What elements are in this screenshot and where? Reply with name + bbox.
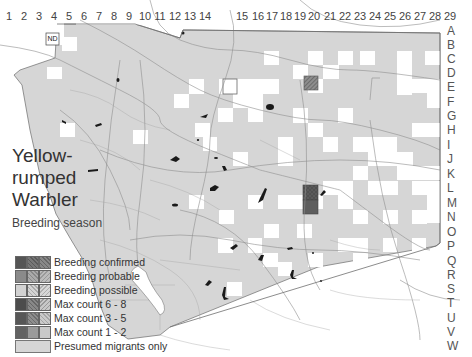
col-label-6: 6: [81, 10, 87, 22]
legend-label: Breeding confirmed: [54, 256, 145, 268]
swatch-icon: [39, 270, 51, 283]
col-label-26: 26: [399, 10, 411, 22]
legend-item-breeding-possible: Breeding possible: [15, 283, 137, 297]
row-label-A: A: [447, 24, 455, 38]
swatch-icon: [15, 298, 27, 311]
col-label-14: 14: [199, 10, 211, 22]
col-label-13: 13: [184, 10, 196, 22]
col-label-25: 25: [384, 10, 396, 22]
col-label-20: 20: [308, 10, 320, 22]
legend-item-max-count-1-2: Max count 1 - 2: [15, 325, 126, 339]
row-label-P: P: [447, 239, 455, 253]
species-title: Yellow- rumped Warbler: [12, 145, 78, 211]
row-label-F: F: [447, 95, 454, 109]
col-label-24: 24: [369, 10, 381, 22]
col-label-11: 11: [154, 10, 165, 22]
swatch-icon: [39, 326, 51, 339]
legend-item-breeding-probable: Breeding probable: [15, 269, 140, 283]
legend-item-max-count-3-5: Max count 3 - 5: [15, 311, 126, 325]
swatch-icon: [39, 256, 51, 269]
col-label-5: 5: [66, 10, 72, 22]
col-label-19: 19: [294, 10, 306, 22]
row-label-J: J: [447, 152, 453, 166]
row-label-O: O: [447, 225, 456, 239]
legend-label: Breeding possible: [54, 284, 137, 296]
col-label-29: 29: [444, 10, 456, 22]
species-title-line-3: Warbler: [12, 189, 78, 211]
cell-20N-breeding-confirmed: [303, 200, 318, 214]
swatch-icon: [15, 340, 51, 353]
row-label-Q: Q: [447, 254, 456, 268]
row-label-G: G: [447, 109, 456, 123]
species-title-line-1: Yellow-: [12, 145, 78, 167]
col-label-7: 7: [96, 10, 102, 22]
col-label-8: 8: [111, 10, 117, 22]
row-label-D: D: [447, 66, 456, 80]
swatch-icon: [27, 256, 39, 269]
swatch-icon: [15, 284, 27, 297]
col-label-4: 4: [51, 10, 57, 22]
swatch-icon: [39, 298, 51, 311]
legend-label: Max count 6 - 8: [54, 298, 126, 310]
row-label-B: B: [447, 38, 455, 52]
swatch-icon: [15, 312, 27, 325]
col-label-2: 2: [21, 10, 27, 22]
row-label-C: C: [447, 52, 456, 66]
species-title-line-2: rumped: [12, 167, 78, 189]
legend-item-breeding-confirmed: Breeding confirmed: [15, 255, 145, 269]
swatch-icon: [15, 326, 27, 339]
row-label-M: M: [447, 196, 457, 210]
legend-label: Max count 1 - 2: [54, 326, 126, 338]
row-label-L: L: [447, 181, 454, 195]
swatch-icon: [39, 284, 51, 297]
row-label-I: I: [447, 138, 450, 152]
no-data-label: ND: [46, 35, 59, 42]
legend-label: Breeding probable: [54, 270, 140, 282]
col-label-17: 17: [266, 10, 278, 22]
row-label-R: R: [447, 268, 456, 282]
col-label-3: 3: [36, 10, 42, 22]
season-subtitle: Breeding season: [12, 216, 102, 230]
col-label-16: 16: [252, 10, 264, 22]
col-label-22: 22: [339, 10, 351, 22]
row-label-V: V: [447, 325, 455, 339]
swatch-icon: [15, 256, 27, 269]
swatch-icon: [27, 270, 39, 283]
row-label-U: U: [447, 311, 456, 325]
col-label-10: 10: [139, 10, 151, 22]
row-label-K: K: [447, 167, 455, 181]
legend-item-max-count-6-8: Max count 6 - 8: [15, 297, 126, 311]
col-label-9: 9: [126, 10, 132, 22]
row-label-H: H: [447, 123, 456, 137]
row-label-S: S: [447, 282, 455, 296]
swatch-icon: [27, 298, 39, 311]
swatch-icon: [27, 326, 39, 339]
swatch-icon: [39, 312, 51, 325]
col-label-21: 21: [324, 10, 336, 22]
row-label-W: W: [447, 339, 458, 353]
col-label-27: 27: [414, 10, 426, 22]
row-label-E: E: [447, 80, 455, 94]
swatch-icon: [15, 270, 27, 283]
col-label-15: 15: [236, 10, 248, 22]
row-label-N: N: [447, 210, 456, 224]
col-label-23: 23: [354, 10, 366, 22]
cell-20E-breeding-probable: [304, 76, 318, 90]
legend-item-presumed-migrants: Presumed migrants only: [15, 339, 167, 353]
col-label-1: 1: [6, 10, 12, 22]
col-label-28: 28: [429, 10, 441, 22]
legend-label: Presumed migrants only: [54, 340, 167, 352]
col-label-18: 18: [280, 10, 292, 22]
swatch-icon: [27, 284, 39, 297]
legend-label: Max count 3 - 5: [54, 312, 126, 324]
swatch-icon: [27, 312, 39, 325]
row-label-T: T: [447, 296, 454, 310]
col-label-12: 12: [169, 10, 181, 22]
